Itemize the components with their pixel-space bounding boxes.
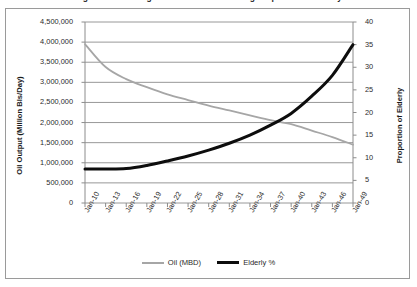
legend-label-oil: Oil (MBD) (168, 258, 201, 267)
plot-area (6, 9, 411, 280)
chart-plot-frame: Oil Output (Million Bls/Day) Proportion … (5, 8, 410, 279)
chart-container: Figure 1: Declining Oil Production vs. R… (0, 0, 417, 287)
legend-item-elderly: Elderly % (217, 258, 275, 267)
chart-title: Figure 1: Declining Oil Production vs. R… (0, 0, 417, 2)
chart-legend: Oil (MBD) Elderly % (0, 258, 417, 267)
legend-item-oil: Oil (MBD) (142, 258, 201, 267)
legend-line-oil-icon (142, 262, 164, 264)
legend-label-elderly: Elderly % (243, 258, 275, 267)
legend-line-elderly-icon (217, 261, 239, 264)
